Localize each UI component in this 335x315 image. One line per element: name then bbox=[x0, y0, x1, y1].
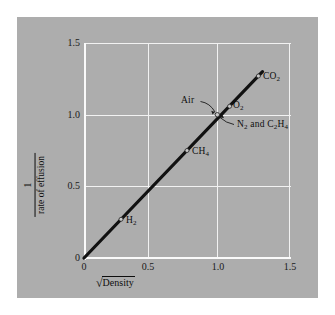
annotation-label-air: Air bbox=[181, 95, 194, 105]
gridline-vertical-1.5 bbox=[289, 43, 290, 259]
x-axis-line bbox=[84, 257, 291, 259]
data-label-ch4-subscript: 4 bbox=[206, 150, 210, 158]
annotation-label-n2-c2h4: N2 and C2H4 bbox=[237, 119, 288, 131]
x-axis-label-radicand: Density bbox=[102, 276, 135, 288]
y-axis-label: 1 rate of effusion bbox=[26, 120, 44, 250]
chart-figure: 0 0.5 1.0 1.5 0 0.5 1.0 1.5 H2 CH4 O2 CO… bbox=[0, 0, 335, 315]
y-tick-label-1.5: 1.5 bbox=[54, 37, 80, 48]
data-label-co2-subscript: 2 bbox=[277, 75, 281, 83]
annotation-h4-subscript: 4 bbox=[285, 123, 289, 131]
y-axis-line bbox=[84, 43, 86, 260]
gridline-vertical-0.5 bbox=[148, 43, 149, 259]
data-label-h2: H2 bbox=[126, 215, 137, 227]
gridline-horizontal-0.5 bbox=[84, 186, 291, 187]
gridline-vertical-1.0 bbox=[217, 43, 218, 259]
data-label-o2: O2 bbox=[233, 100, 244, 112]
gridline-horizontal-1.5 bbox=[84, 43, 291, 44]
x-tick-label-1.5: 1.5 bbox=[275, 261, 305, 272]
x-axis-label: √Density bbox=[96, 276, 135, 291]
data-label-o2-subscript: 2 bbox=[240, 104, 244, 112]
annotation-and-text: and C bbox=[248, 119, 274, 129]
annotation-h-text: H bbox=[277, 119, 284, 129]
x-tick-label-1.0: 1.0 bbox=[203, 261, 233, 272]
y-tick-label-0: 0 bbox=[54, 252, 80, 263]
data-label-ch4: CH4 bbox=[192, 146, 209, 158]
data-label-co2-text: CO bbox=[263, 71, 277, 81]
y-axis-label-fraction: 1 rate of effusion bbox=[24, 153, 47, 217]
y-tick-label-1.0: 1.0 bbox=[54, 109, 80, 120]
data-label-o2-text: O bbox=[233, 100, 240, 110]
y-tick-label-0.5: 0.5 bbox=[54, 180, 80, 191]
y-axis-label-numerator: 1 bbox=[24, 180, 35, 191]
annotation-n2-text: N bbox=[237, 119, 244, 129]
data-label-ch4-text: CH bbox=[192, 146, 206, 156]
data-label-h2-subscript: 2 bbox=[133, 219, 137, 227]
y-axis-label-denominator: rate of effusion bbox=[36, 153, 47, 217]
gridline-horizontal-1.0 bbox=[84, 115, 291, 116]
data-label-h2-text: H bbox=[126, 215, 133, 225]
data-label-co2: CO2 bbox=[263, 71, 280, 83]
x-tick-label-0.5: 0.5 bbox=[133, 261, 163, 272]
